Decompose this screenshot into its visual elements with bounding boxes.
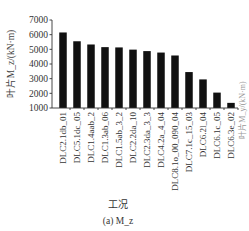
- y-tick-label: 3000: [29, 74, 48, 84]
- category-label: DLC1.3ab_06: [100, 112, 110, 164]
- y-tick-label: 7000: [29, 15, 48, 25]
- bar: [227, 103, 235, 108]
- bar: [59, 32, 67, 108]
- category-label: DLC6.1c_05: [212, 112, 222, 159]
- category-label: DLC2.2da_10: [128, 112, 138, 164]
- adjacent-chart-label-fragment: 叶片M_y/(kN·m): [237, 81, 247, 139]
- y-axis: 1000200030004000500060007000: [29, 15, 52, 113]
- category-label: DLC2.3da_3_3: [142, 112, 152, 168]
- y-axis-label: 叶片M_z/(kN·m): [5, 30, 17, 99]
- bar: [171, 55, 179, 108]
- bar: [73, 41, 81, 108]
- bar: [87, 44, 95, 108]
- bar: [199, 79, 207, 108]
- category-label: DLC4.2a_4_04: [156, 112, 166, 168]
- bar: [143, 51, 151, 108]
- y-tick-label: 5000: [29, 45, 48, 55]
- category-label: DLC1.4aab_2: [86, 112, 96, 163]
- category-label: DLC1.5ab_3_2: [114, 112, 124, 168]
- y-tick-label: 4000: [29, 59, 48, 69]
- category-label: DLC5.1dc_05: [72, 112, 82, 164]
- bar: [213, 93, 221, 108]
- bar: [129, 50, 137, 108]
- figure-caption: (a) M_z: [103, 216, 133, 227]
- bar: [115, 47, 123, 108]
- y-tick-label: 2000: [29, 89, 48, 99]
- bars: [59, 32, 235, 108]
- category-label: DLC6.2l_04: [198, 112, 208, 158]
- bar: [185, 72, 193, 108]
- y-tick-label: 1000: [29, 103, 48, 113]
- x-axis: DLC2.1db_01DLC5.1dc_05DLC1.4aab_2DLC1.3a…: [52, 108, 238, 191]
- category-label: DLC6.3e_02: [226, 112, 236, 159]
- category-label: DLC7.1c_15_03: [184, 112, 194, 173]
- x-axis-label: 工况: [108, 199, 128, 210]
- bar: [101, 47, 109, 108]
- y-tick-label: 6000: [29, 30, 48, 40]
- bar-chart: 1000200030004000500060007000 DLC2.1db_01…: [0, 0, 249, 231]
- category-label: DLC2.1db_01: [58, 112, 68, 164]
- bar: [157, 53, 165, 108]
- category-label: DLC8.1o_00_090_04: [170, 112, 180, 191]
